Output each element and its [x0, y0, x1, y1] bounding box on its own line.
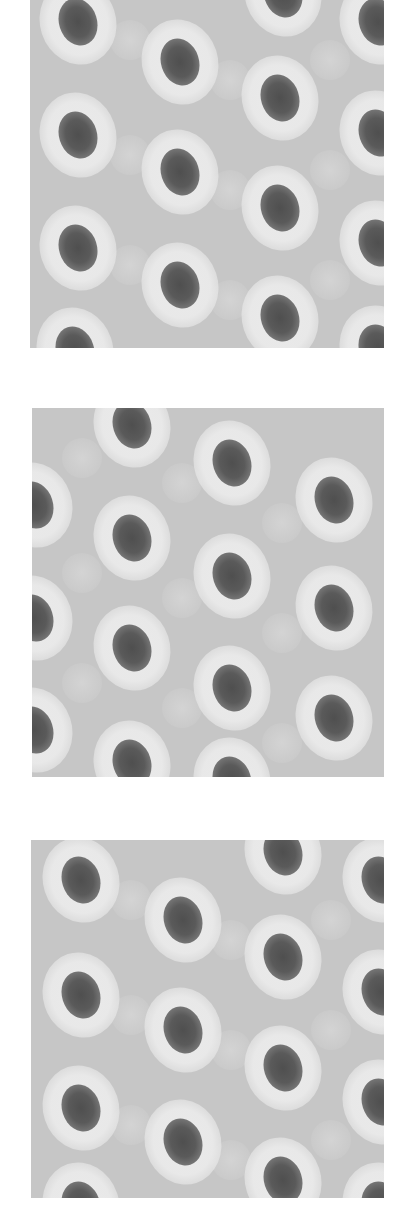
faint-spot — [311, 1010, 351, 1050]
faint-spot — [310, 260, 350, 300]
faint-spot — [311, 1120, 351, 1160]
pattern-panel-1 — [30, 0, 384, 348]
pattern-panel-2 — [32, 408, 384, 777]
faint-spot — [311, 900, 351, 940]
faint-spot — [310, 150, 350, 190]
faint-spot — [310, 40, 350, 80]
faint-spot — [62, 438, 102, 478]
faint-spot — [262, 723, 302, 763]
faint-spot — [62, 553, 102, 593]
faint-spot — [62, 663, 102, 703]
pattern-panel-3 — [31, 840, 384, 1198]
faint-spot — [262, 503, 302, 543]
faint-spot — [262, 613, 302, 653]
